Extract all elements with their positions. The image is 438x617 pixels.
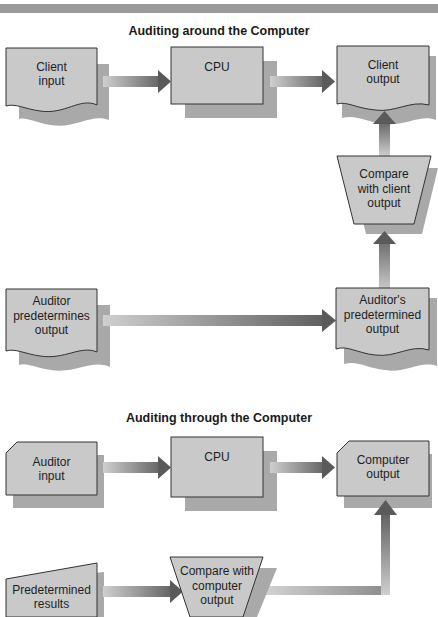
arrow-input-to-cpu (103, 70, 171, 93)
label-compare-client: Compare with client output (350, 160, 418, 218)
label-client-input: Client input (6, 52, 97, 96)
arrow-predetermined-to-compare (373, 231, 396, 289)
label-auditor-input: Auditor input (6, 447, 97, 491)
label-cpu-through: CPU (171, 437, 263, 477)
label-auditors-predetermined: Auditor's predetermined output (336, 289, 429, 341)
label-client-output: Client output (337, 50, 429, 94)
arrow-compare-to-computer-output (252, 500, 397, 595)
arrow-auditor-to-predetermined (103, 309, 336, 332)
arrow-predetermined-to-compare-through (103, 580, 183, 603)
label-computer-output: Computer output (337, 447, 429, 487)
arrow-auditor-input-to-cpu (103, 456, 171, 479)
label-predetermined-results: Predetermined results (6, 578, 97, 616)
arrow-cpu-to-computer-output (270, 456, 335, 479)
label-compare-computer: Compare with computer output (172, 558, 262, 614)
label-cpu-around: CPU (171, 47, 263, 87)
arrow-cpu-to-client-output (270, 70, 335, 93)
label-auditor-predetermines: Auditor predetermines output (6, 290, 97, 342)
